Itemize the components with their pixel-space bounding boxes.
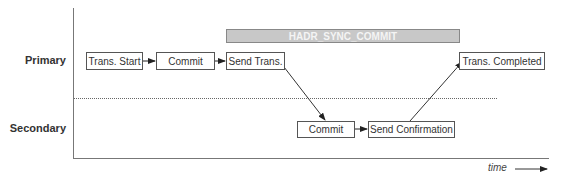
step-secondary-commit: Commit: [297, 121, 355, 138]
phase-bar-hadr-sync-commit: HADR_SYNC_COMMIT: [226, 29, 460, 43]
step-trans-completed: Trans. Completed: [459, 52, 545, 70]
step-trans-start: Trans. Start: [86, 52, 143, 70]
step-label: Send Confirmation: [370, 124, 453, 135]
step-label: Trans. Start: [89, 56, 141, 67]
phase-bar-label: HADR_SYNC_COMMIT: [289, 31, 397, 42]
step-label: Trans. Completed: [462, 56, 541, 67]
step-label: Commit: [168, 56, 202, 67]
time-axis-label: time: [488, 162, 507, 173]
arrow-confirmation-to-completed: [410, 62, 462, 121]
step-primary-commit: Commit: [156, 52, 215, 70]
row-label-primary: Primary: [0, 54, 66, 66]
diagram-lines: [0, 0, 567, 182]
step-send-trans: Send Trans.: [226, 52, 285, 70]
step-label: Commit: [309, 124, 343, 135]
row-label-secondary: Secondary: [0, 122, 66, 134]
arrow-send-to-secondary-commit: [284, 67, 325, 120]
step-send-confirmation: Send Confirmation: [368, 121, 455, 138]
step-label: Send Trans.: [229, 56, 283, 67]
